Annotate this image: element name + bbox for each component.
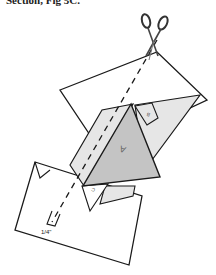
folding-diagram: B C A 1/4": [0, 0, 216, 275]
measurement-label: 1/4": [41, 229, 51, 235]
